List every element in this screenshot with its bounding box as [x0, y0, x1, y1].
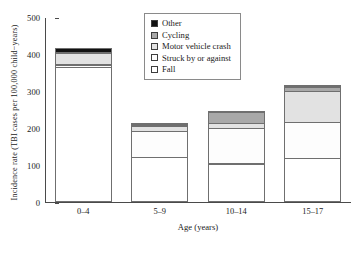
bar-0–4	[55, 48, 112, 202]
bar-segment-cycling	[208, 112, 265, 123]
chart-legend: OtherCyclingMotor vehicle crashStruck by…	[144, 13, 241, 80]
bar-segment-motor-vehicle-crash	[284, 91, 341, 123]
bar-15–17	[284, 85, 341, 202]
bar-segment-struck-by-or-against	[284, 122, 341, 159]
legend-swatch-icon	[151, 32, 158, 39]
legend-swatch-icon	[151, 43, 158, 50]
y-axis-tick-label-0: 0	[14, 199, 40, 208]
x-axis-line	[45, 202, 351, 203]
legend-item-label: Other	[162, 19, 182, 28]
legend-item-label: Cycling	[162, 31, 189, 40]
x-axis-tick-label-0–4: 0–4	[77, 207, 90, 216]
bar-10–14	[208, 111, 265, 202]
x-axis-tick-label-5–9: 5–9	[153, 207, 166, 216]
y-axis-tick-label-200: 200	[14, 125, 40, 134]
legend-item-label: Struck by or against	[162, 54, 231, 63]
legend-item-label: Motor vehicle crash	[162, 42, 231, 51]
legend-swatch-icon	[151, 54, 158, 61]
bar-segment-fall	[55, 67, 112, 202]
legend-item-cycling: Cycling	[151, 29, 231, 40]
y-axis-tick-label-500: 500	[14, 14, 40, 23]
legend-swatch-icon	[151, 20, 158, 27]
legend-item-other: Other	[151, 18, 231, 29]
y-axis-tick-labels: 0100200300400500	[14, 0, 40, 258]
chart-figure: Incidence rate (TBI cases per 100,000 ch…	[0, 0, 361, 258]
legend-item-fall: Fall	[151, 64, 231, 75]
bar-5–9	[131, 123, 188, 202]
bar-segment-struck-by-or-against	[208, 128, 265, 164]
x-axis-tick-label-15–17: 15–17	[302, 207, 323, 216]
legend-item-struck-by-or-against: Struck by or against	[151, 52, 231, 63]
bar-segment-fall	[284, 158, 341, 202]
bar-segment-struck-by-or-against	[131, 131, 188, 158]
y-axis-tick-label-100: 100	[14, 162, 40, 171]
bar-segment-fall	[131, 157, 188, 202]
legend-item-label: Fall	[162, 65, 175, 74]
y-axis-tick-label-400: 400	[14, 51, 40, 60]
legend-swatch-icon	[151, 66, 158, 73]
bar-segment-motor-vehicle-crash	[55, 53, 112, 65]
x-axis-title: Age (years)	[45, 222, 351, 232]
x-axis-tick-label-10–14: 10–14	[226, 207, 247, 216]
legend-item-motor-vehicle-crash: Motor vehicle crash	[151, 41, 231, 52]
y-axis-line	[45, 18, 46, 203]
y-axis-tick-label-300: 300	[14, 88, 40, 97]
y-axis-tick-mark-0	[55, 203, 59, 204]
bar-segment-fall	[208, 164, 265, 202]
